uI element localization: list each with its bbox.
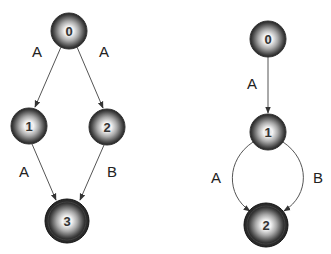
- edge-label-0-1: A: [32, 43, 42, 60]
- state-node: 2: [89, 109, 125, 145]
- edge-label-1-2-b: B: [313, 169, 323, 186]
- edge-label-1-2-a: A: [211, 169, 221, 186]
- state-diagrams: A A A B 0 1 2 3 A A B 0: [0, 0, 331, 254]
- state-node: 0: [250, 21, 286, 57]
- left-automaton: A A A B 0 1 2 3: [11, 13, 125, 243]
- node-label: 0: [264, 32, 271, 47]
- node-label: 1: [25, 119, 32, 134]
- node-label: 1: [264, 125, 271, 140]
- state-node: 1: [11, 108, 47, 144]
- edge-1-3: [32, 144, 56, 200]
- edge-1-2-a: [232, 142, 253, 211]
- state-node: 0: [51, 13, 87, 49]
- node-label: 0: [65, 24, 72, 39]
- edge-label-2-3: B: [107, 163, 117, 180]
- node-label: 2: [262, 218, 269, 233]
- edge-label-0-1: A: [247, 75, 257, 92]
- edge-2-3: [80, 145, 104, 200]
- node-label: 2: [103, 120, 110, 135]
- state-node: 1: [250, 114, 286, 150]
- accepting-state-node: 2: [244, 203, 288, 247]
- edge-1-2-b: [283, 142, 303, 211]
- edge-label-1-3: A: [19, 163, 29, 180]
- node-label: 3: [63, 214, 70, 229]
- right-automaton: A A B 0 1 2: [211, 21, 323, 247]
- accepting-state-node: 3: [45, 199, 89, 243]
- edge-label-0-2: A: [99, 43, 109, 60]
